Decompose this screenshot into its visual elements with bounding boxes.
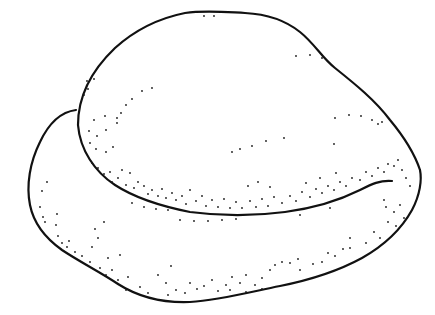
stipple-dots	[39, 15, 411, 296]
illustration-canvas	[0, 0, 435, 315]
crease-outline	[78, 125, 392, 215]
lower-lobe-outline	[28, 110, 420, 302]
stippled-drawing	[0, 0, 435, 315]
upper-lobe-outline	[78, 11, 420, 170]
